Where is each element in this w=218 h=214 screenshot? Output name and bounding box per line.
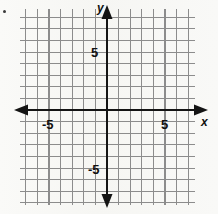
- y-axis-name-label: y: [97, 2, 104, 14]
- y-axis-tick-label-negative-5: -5: [88, 163, 100, 176]
- coordinate-grid-figure: 5 -5 5 -5 x y: [0, 0, 218, 214]
- x-axis-name-label: x: [201, 116, 208, 128]
- coordinate-plane-svg: [0, 0, 218, 214]
- x-axis-arrow-left: [14, 105, 28, 116]
- x-axis-tick-label-negative-5: -5: [42, 118, 54, 131]
- y-axis-arrow-down: [102, 194, 113, 208]
- axis-layer: [14, 5, 208, 208]
- y-axis-tick-label-5: 5: [91, 46, 98, 59]
- x-axis-arrow-right: [194, 105, 208, 116]
- x-axis-tick-label-5: 5: [161, 118, 168, 131]
